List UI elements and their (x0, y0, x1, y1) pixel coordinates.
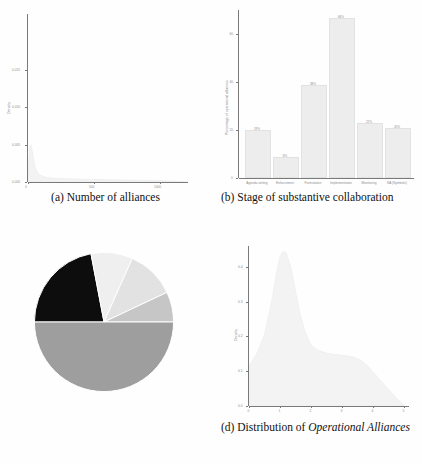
panel-d-yticklabel-3: 0.3 (238, 300, 243, 304)
panel-b-caption-prefix: (b) (221, 191, 234, 203)
panel-d-density-curve (249, 246, 404, 406)
panel-b-y-axis-title: Percentage of operational alliances (225, 80, 229, 135)
panel-d-xtick-0 (249, 406, 250, 408)
panel-a-yticklabel-2: 0.010 (12, 105, 20, 109)
panel-d-yticklabel-2: 0.2 (238, 334, 243, 338)
panel-b-barlabel-3: 66% (329, 15, 353, 19)
panel-d-ytick-4 (246, 267, 248, 268)
panel-a-density-number-of-alliances: 0 500 1000 0.000 0.005 0.010 0.015 Densi… (0, 0, 211, 200)
panel-a-xticklabel-1: 500 (89, 185, 94, 189)
panel-a-xticklabel-2: 1000 (154, 185, 161, 189)
figure-panel-grid: 0 500 1000 0.000 0.005 0.010 0.015 Densi… (0, 0, 422, 465)
panel-b-category-label-5: NA (Symbolic) (377, 181, 417, 185)
panel-b-bar-4 (357, 123, 383, 178)
panel-d-y-axis-title: Density (234, 329, 238, 341)
panel-b-barlabel-0: 19% (245, 127, 269, 131)
panel-b-bar-stage-of-collaboration: 19% 8% 38% 66% 22% 20% 0 20 40 60 Percen… (211, 0, 422, 232)
panel-a-y-axis-title: Density (7, 102, 11, 114)
panel-d-xtick-1 (280, 406, 281, 408)
panel-d-y-axis (248, 246, 249, 406)
panel-a-yticklabel-0: 0.000 (12, 180, 20, 184)
panel-c-pie-chart (24, 242, 184, 402)
panel-b-x-axis (239, 178, 414, 179)
panel-b-bar-5 (385, 128, 411, 178)
panel-d-xtick-2 (311, 406, 312, 408)
panel-b-y-axis (238, 10, 239, 178)
panel-d-yticklabel-4: 0.4 (238, 265, 243, 269)
panel-d-xtick-4 (373, 406, 374, 408)
panel-d-x-axis (249, 406, 409, 407)
panel-d-xticklabel-2: 2 (310, 409, 312, 413)
panel-d-caption-prefix: (d) (221, 421, 234, 433)
panel-d-xticklabel-4: 4 (372, 409, 374, 413)
panel-a-x-axis (28, 182, 188, 183)
panel-d-yticklabel-1: 0.1 (238, 369, 243, 373)
panel-d-xticklabel-0: 0 (248, 409, 250, 413)
panel-b-yticklabel-3: 60 (230, 32, 234, 36)
panel-a-ytick-3 (25, 70, 27, 71)
panel-c-slice-1 (34, 322, 173, 392)
panel-d-caption-italic: Operational Alliances (308, 421, 410, 433)
panel-d-xticklabel-1: 1 (279, 409, 281, 413)
panel-a-plot-area: 0 500 1000 0.000 0.005 0.010 0.015 Densi… (28, 14, 188, 182)
panel-b-yticklabel-1: 20 (230, 128, 234, 132)
panel-a-ytick-2 (25, 107, 27, 108)
panel-d-xtick-5 (404, 406, 405, 408)
panel-d-xtick-3 (342, 406, 343, 408)
panel-d-xticklabel-5: 5 (403, 409, 405, 413)
panel-d-plot-area: 0 1 2 3 4 5 0.0 0.1 0.2 0.3 0.4 Density (249, 246, 404, 406)
panel-b-caption: (b) Stage of substantive collaboration (221, 190, 416, 204)
panel-d-caption: (d) Distribution of Operational Alliance… (221, 420, 421, 434)
panel-b-yticklabel-2: 40 (230, 80, 234, 84)
panel-d-ytick-3 (246, 302, 248, 303)
panel-b-ytick-2 (236, 82, 238, 83)
panel-a-ytick-0 (25, 182, 27, 183)
panel-b-barlabel-1: 8% (273, 154, 297, 158)
panel-d-xticklabel-3: 3 (341, 409, 343, 413)
panel-a-caption: (a) Number of alliances (0, 190, 211, 204)
panel-a-caption-prefix: (a) (51, 191, 64, 203)
panel-c-pie-partner-affiliations: 22% 12% 13% 45% Intergovernmental organi… (0, 232, 211, 465)
panel-b-bar-2 (301, 85, 327, 178)
panel-a-ytick-1 (25, 145, 27, 146)
panel-d-ytick-1 (246, 371, 248, 372)
panel-b-bar-0 (245, 130, 271, 178)
panel-b-barlabel-4: 22% (357, 120, 381, 124)
panel-d-density-operational-alliances: 0 1 2 3 4 5 0.0 0.1 0.2 0.3 0.4 Density … (211, 232, 422, 465)
panel-d-caption-text: Distribution of (237, 421, 308, 433)
panel-b-barlabel-5: 20% (385, 125, 409, 129)
panel-a-yticklabel-3: 0.015 (12, 68, 20, 72)
panel-b-caption-text: Stage of substantive collaboration (237, 191, 393, 203)
panel-b-bar-3 (329, 18, 355, 178)
panel-a-xtick-2 (160, 182, 161, 184)
panel-a-y-axis (27, 14, 28, 182)
panel-b-ytick-0 (236, 178, 238, 179)
panel-d-ytick-0 (246, 406, 248, 407)
panel-b-yticklabel-0: 0 (231, 176, 233, 180)
panel-d-ytick-2 (246, 336, 248, 337)
panel-b-ytick-3 (236, 34, 238, 35)
panel-a-density-curve (28, 14, 188, 182)
panel-a-yticklabel-1: 0.005 (12, 143, 20, 147)
panel-a-caption-text: Number of alliances (67, 191, 160, 203)
panel-b-ytick-1 (236, 130, 238, 131)
panel-a-xtick-0 (28, 182, 29, 184)
panel-d-yticklabel-0: 0.0 (238, 404, 243, 408)
panel-a-xticklabel-0: 0 (25, 185, 27, 189)
panel-b-barlabel-2: 38% (301, 82, 325, 86)
panel-b-bar-1 (273, 157, 299, 178)
panel-b-plot-area: 19% 8% 38% 66% 22% 20% 0 20 40 60 Percen… (239, 10, 409, 178)
panel-a-xtick-1 (94, 182, 95, 184)
